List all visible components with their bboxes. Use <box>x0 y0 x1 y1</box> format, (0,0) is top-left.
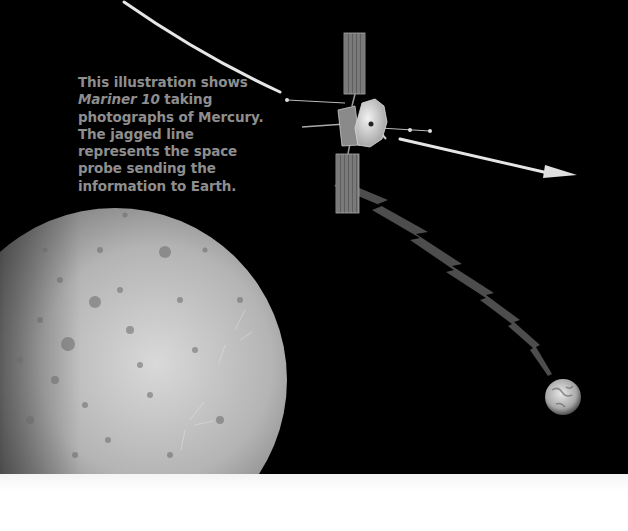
trajectory-arrowhead <box>543 165 577 178</box>
earth-planet <box>545 379 581 415</box>
mercury-planet <box>0 208 287 474</box>
transmission-signal <box>334 180 552 376</box>
caption-spacecraft-name: Mariner 10 <box>78 91 160 107</box>
page-bottom-margin <box>0 474 628 531</box>
mariner-10-spacecraft <box>285 33 432 213</box>
illustration-artwork <box>0 0 628 474</box>
space-illustration: This illustration shows Mariner 10 takin… <box>0 0 628 474</box>
caption-text-start: This illustration shows <box>78 74 248 90</box>
illustration-caption: This illustration shows Mariner 10 takin… <box>78 74 268 195</box>
trajectory-path-outgoing <box>400 139 548 173</box>
